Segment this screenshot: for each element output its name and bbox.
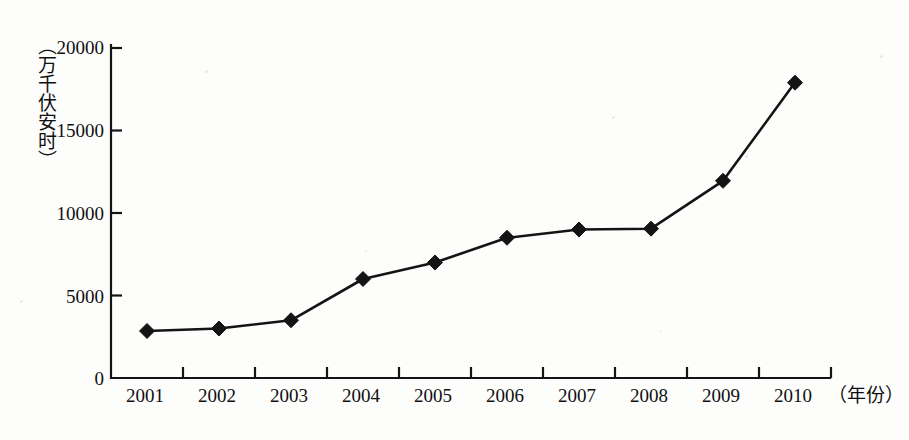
- data-line: [147, 83, 795, 331]
- y-axis-ticks: [111, 48, 122, 378]
- data-point-marker: [356, 272, 371, 287]
- chart-page: （万千伏安时） 20000 15000 10000 5000 0 2001 20…: [0, 0, 909, 440]
- data-point-marker: [644, 221, 659, 236]
- data-point-marker: [572, 222, 587, 237]
- data-markers: [140, 75, 803, 338]
- data-point-marker: [212, 321, 227, 336]
- x-axis-ticks: [183, 367, 831, 378]
- data-point-marker: [428, 255, 443, 270]
- data-point-marker: [500, 230, 515, 245]
- data-point-marker: [140, 323, 155, 338]
- line-chart-plot: [0, 0, 909, 440]
- data-point-marker: [284, 313, 299, 328]
